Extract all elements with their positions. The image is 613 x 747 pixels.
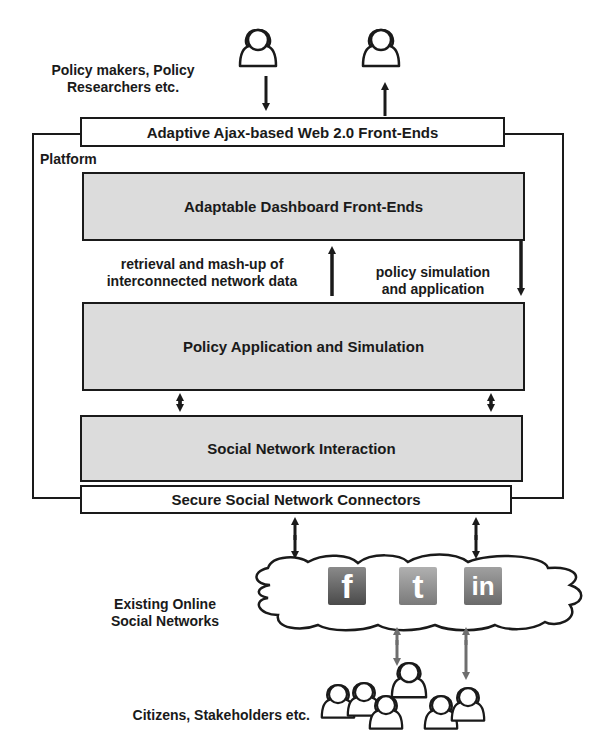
- linkedin-logo-icon: in: [464, 567, 502, 605]
- diagram-graphics: [0, 0, 613, 747]
- facebook-logo-icon: f: [328, 567, 366, 605]
- citizens-crowd-icon: [322, 663, 484, 729]
- person-icon-up: [363, 30, 399, 66]
- person-icon-down: [240, 30, 276, 66]
- twitter-logo-icon: t: [399, 567, 437, 605]
